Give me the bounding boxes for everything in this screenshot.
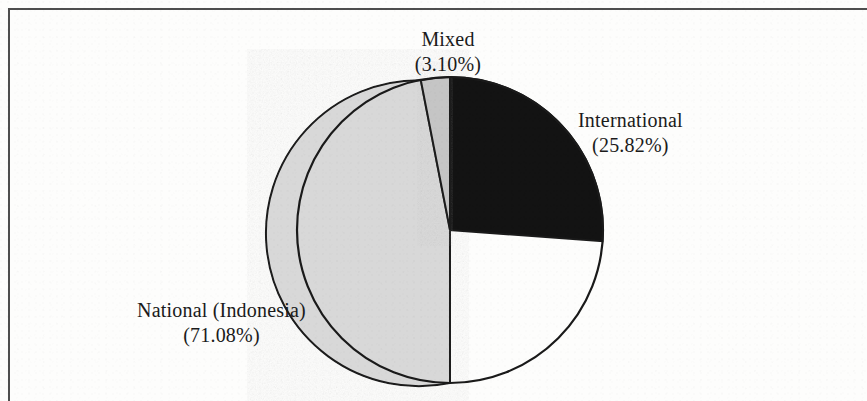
pie-chart: Mixed (3.10%) International (25.82%) Nat… <box>0 0 867 401</box>
pie-label-national: National (Indonesia) (71.08%) <box>137 298 306 348</box>
figure-page: Mixed (3.10%) International (25.82%) Nat… <box>0 0 867 401</box>
pie-label-international-name: International <box>578 108 683 133</box>
pie-label-mixed: Mixed (3.10%) <box>415 27 481 77</box>
pie-label-mixed-name: Mixed <box>415 27 481 52</box>
pie-slice-international <box>450 77 603 241</box>
pie-label-international-percent: (25.82%) <box>578 133 683 158</box>
pie-label-international: International (25.82%) <box>578 108 683 158</box>
pie-label-mixed-percent: (3.10%) <box>415 52 481 77</box>
pie-label-national-percent: (71.08%) <box>137 323 306 348</box>
pie-label-national-name: National (Indonesia) <box>137 298 306 323</box>
